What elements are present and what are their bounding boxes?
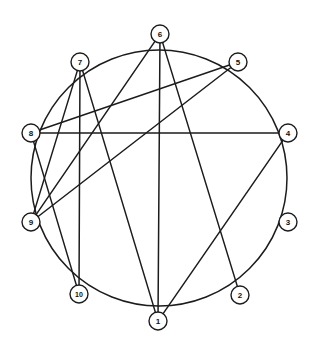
graph-node-4[interactable]: 4	[279, 124, 297, 142]
graph-edge	[40, 65, 230, 130]
graph-node-2[interactable]: 2	[231, 286, 249, 304]
graph-canvas: 12345678910	[0, 0, 317, 349]
node-label-7: 7	[78, 58, 83, 67]
node-label-9: 9	[29, 218, 34, 227]
node-label-4: 4	[286, 129, 291, 138]
graph-node-8[interactable]: 8	[22, 124, 40, 142]
node-label-10: 10	[75, 291, 83, 298]
graph-node-7[interactable]: 7	[71, 53, 89, 71]
graph-edge	[79, 71, 80, 285]
graph-node-10[interactable]: 10	[70, 285, 88, 303]
graph-node-9[interactable]: 9	[22, 213, 40, 231]
graph-edge	[158, 43, 160, 312]
graph-node-6[interactable]: 6	[151, 25, 169, 43]
graph-edge	[163, 43, 238, 287]
graph-edge	[34, 142, 77, 286]
node-label-8: 8	[29, 129, 34, 138]
node-label-6: 6	[158, 30, 163, 39]
graph-node-3[interactable]: 3	[279, 213, 297, 231]
node-label-5: 5	[236, 58, 241, 67]
graph-edge	[163, 140, 283, 313]
circular-graph-figure: 12345678910	[0, 0, 317, 349]
graph-node-5[interactable]: 5	[229, 53, 247, 71]
graph-edge	[83, 71, 156, 313]
node-label-2: 2	[238, 291, 243, 300]
node-label-3: 3	[286, 218, 291, 227]
node-label-1: 1	[156, 317, 161, 326]
graph-node-1[interactable]: 1	[149, 312, 167, 330]
